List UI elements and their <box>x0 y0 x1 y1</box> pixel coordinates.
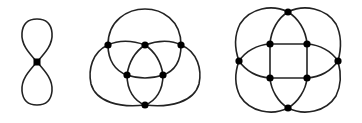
vertex-node <box>235 57 242 64</box>
lower-left-arc-edge <box>127 75 145 105</box>
middle-arc-edge <box>127 75 163 78</box>
vertex-node <box>177 41 184 48</box>
vertex-node <box>266 40 273 47</box>
top-outer-arc-edge <box>108 9 181 45</box>
top-to-square-tr-arc-edge <box>288 12 307 44</box>
left-to-square-bl-arc-edge <box>239 61 270 78</box>
outer-bottom-right-arc-edge <box>288 61 340 112</box>
center-right-arc-edge <box>145 45 163 75</box>
top-to-square-tl-arc-edge <box>270 12 288 44</box>
diagram-canvas <box>0 0 362 123</box>
right-to-square-tr-arc-edge <box>307 44 338 61</box>
lower-right-arc-edge <box>145 75 163 105</box>
bottom-to-square-br-arc-edge <box>288 78 307 108</box>
outer-top-left-arc-edge <box>236 8 288 61</box>
left-inner-arc-edge <box>108 45 127 75</box>
vertex-node <box>303 74 310 81</box>
vertex-node <box>284 104 291 111</box>
vertex-node <box>141 101 148 108</box>
top-mid-right-arc-edge <box>145 41 181 45</box>
four-circles-square-graph <box>235 8 341 112</box>
vertex-node <box>34 59 41 66</box>
right-outer-arc-edge <box>145 45 200 106</box>
bottom-loop-edge <box>22 62 52 105</box>
top-loop-edge <box>22 19 52 62</box>
left-to-square-tl-arc-edge <box>239 44 270 61</box>
bottom-to-square-bl-arc-edge <box>270 78 288 108</box>
top-left-mid-arc-edge <box>108 41 145 45</box>
outer-top-right-arc-edge <box>288 8 340 61</box>
three-circles-graph <box>90 9 200 109</box>
vertex-node <box>284 8 291 15</box>
vertex-node <box>104 41 111 48</box>
vertex-node <box>159 71 166 78</box>
center-left-arc-edge <box>127 45 145 75</box>
right-inner-arc-edge <box>163 45 181 75</box>
vertex-node <box>303 40 310 47</box>
left-outer-arc-edge <box>90 45 145 106</box>
outer-bottom-left-arc-edge <box>236 61 288 112</box>
vertex-node <box>266 74 273 81</box>
vertex-node <box>141 41 148 48</box>
figure-eight-graph <box>22 19 52 105</box>
vertex-node <box>334 57 341 64</box>
vertex-node <box>123 71 130 78</box>
right-to-square-br-arc-edge <box>307 61 338 78</box>
